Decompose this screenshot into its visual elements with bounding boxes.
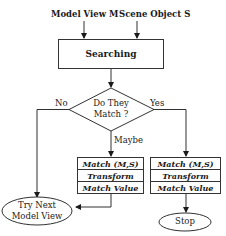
try-next-line-2: Model View bbox=[2, 211, 72, 222]
yes-branch-label: Yes bbox=[150, 99, 164, 108]
maybe-match-row: Match (M,S) bbox=[78, 158, 143, 170]
decision-line-1: Do They bbox=[81, 98, 141, 109]
yes-match-value-row: Match Value bbox=[151, 182, 220, 193]
no-branch-label: No bbox=[55, 99, 68, 108]
stop-label: Stop bbox=[159, 216, 211, 227]
input-scene-object-label: Scene Object S bbox=[119, 10, 190, 19]
yes-transform-row: Transform bbox=[151, 170, 220, 182]
try-next-model-view-terminal: Try Next Model View bbox=[2, 200, 72, 222]
maybe-branch-label: Maybe bbox=[114, 136, 143, 145]
decision-line-2: Match ? bbox=[81, 109, 141, 120]
try-next-line-1: Try Next bbox=[2, 200, 72, 211]
decision-diamond-text: Do They Match ? bbox=[81, 98, 141, 120]
maybe-match-box: Match (M,S) Transform Match Value bbox=[77, 157, 144, 194]
input-model-view-label: Model View M bbox=[51, 10, 118, 19]
yes-match-box: Match (M,S) Transform Match Value bbox=[150, 157, 221, 194]
stop-terminal: Stop bbox=[159, 216, 211, 227]
maybe-transform-row: Transform bbox=[78, 170, 143, 182]
maybe-match-value-row: Match Value bbox=[78, 182, 143, 193]
yes-match-row: Match (M,S) bbox=[151, 158, 220, 170]
searching-process-box: Searching bbox=[58, 39, 164, 69]
searching-label: Searching bbox=[85, 49, 136, 59]
